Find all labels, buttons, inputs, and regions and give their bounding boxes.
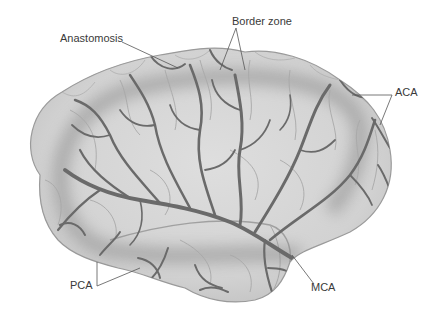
cerebral-hemisphere [31, 48, 392, 302]
aca-label: ACA [395, 87, 418, 98]
mca-leader [292, 255, 314, 284]
aca-leader-bottom [380, 95, 392, 125]
border-zone-label: Border zone [232, 16, 292, 27]
pca-leader-b [97, 268, 140, 286]
brain-illustration [0, 0, 432, 319]
brain-diagram: Anastomosis Border zone ACA MCA PCA [0, 0, 432, 319]
anastomosis-label: Anastomosis [60, 33, 123, 44]
mca-label: MCA [311, 282, 335, 293]
pca-label: PCA [70, 280, 93, 291]
